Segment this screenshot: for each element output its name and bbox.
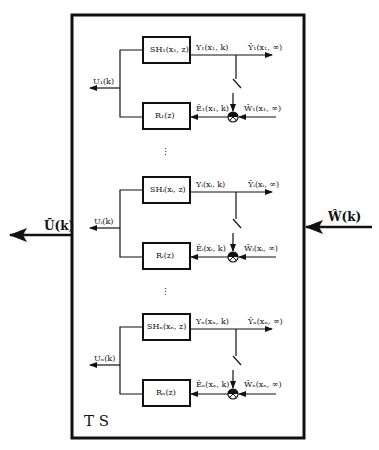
plant-block (143, 177, 190, 203)
system-frame (72, 15, 304, 438)
plant-block (143, 37, 190, 63)
controller-block (143, 380, 190, 406)
loop-1 (90, 37, 276, 129)
loop-i (90, 177, 276, 269)
controller-block (143, 243, 190, 269)
controller-block (143, 103, 190, 129)
plant-block (143, 314, 190, 340)
loop-n (90, 314, 276, 406)
control-system-diagram (0, 0, 379, 450)
